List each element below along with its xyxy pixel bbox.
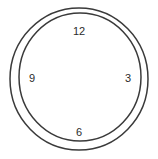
hour-label-6: 6 (0, 127, 158, 138)
hour-label-9: 9 (29, 73, 35, 84)
clock-face-diagram: 12 3 6 9 (0, 0, 158, 159)
hour-label-12: 12 (0, 26, 158, 37)
hour-label-3: 3 (0, 73, 131, 84)
